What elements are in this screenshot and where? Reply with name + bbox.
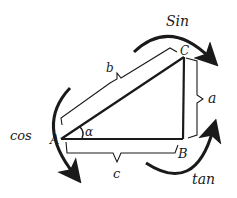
bracket-adjacent [66, 142, 178, 162]
vertex-c-label: C [180, 44, 189, 58]
side-b-label: b [106, 61, 114, 75]
vertex-b-label: B [177, 146, 188, 161]
cos-arrow-icon [53, 88, 74, 174]
side-c-label: c [113, 166, 121, 181]
tan-label: tan [192, 171, 215, 187]
triangle [61, 57, 184, 139]
sin-arrow-icon [134, 36, 210, 58]
angle-alpha-arc [80, 127, 83, 138]
bracket-opposite [186, 58, 203, 138]
cos-label: cos [10, 128, 32, 143]
trig-triangle-diagram: Sin C b a cos A α B c tan [0, 0, 237, 198]
side-a-label: a [208, 90, 216, 106]
bracket-hypotenuse [61, 48, 177, 125]
diagram-canvas: Sin C b a cos A α B c tan [0, 0, 237, 198]
sin-label: Sin [166, 13, 189, 29]
vertex-a-label: A [49, 132, 59, 147]
angle-alpha-label: α [85, 125, 93, 139]
